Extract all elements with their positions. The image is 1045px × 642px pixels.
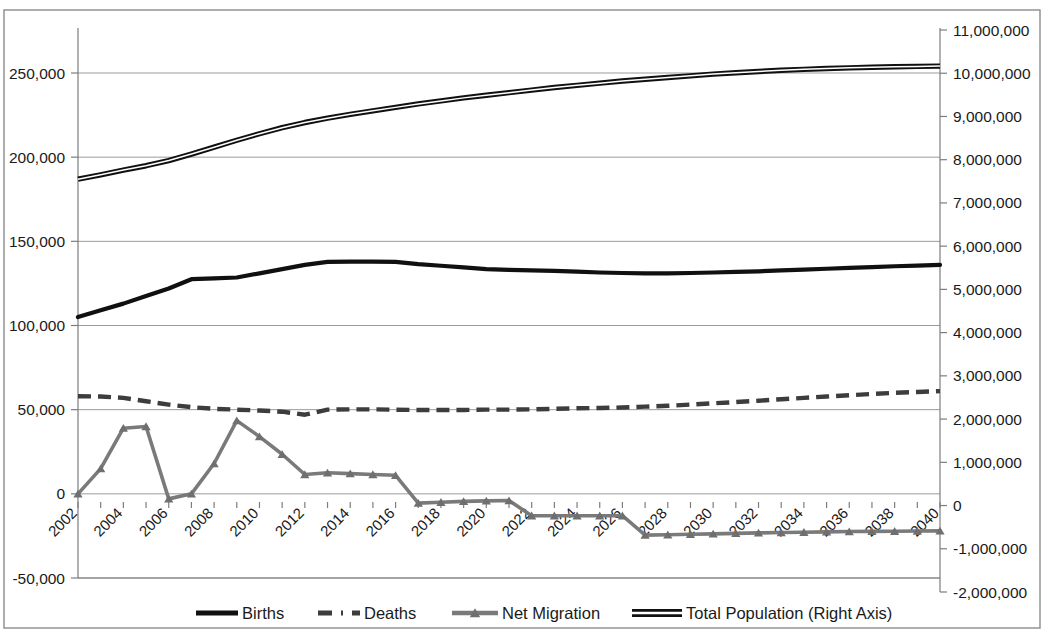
series-line-total-population (78, 66, 940, 179)
left-axis-tick-label: 0 (56, 485, 65, 502)
right-axis-tick-label: 3,000,000 (953, 367, 1022, 384)
legend-label: Net Migration (502, 604, 600, 622)
legend-label: Deaths (364, 604, 416, 622)
x-axis-tick-label: 2006 (135, 504, 171, 540)
x-axis-tick-label: 2024 (544, 504, 580, 540)
left-axis-tick-label: 100,000 (9, 317, 65, 334)
right-axis-tick-label: 11,000,000 (953, 22, 1030, 39)
left-axis-tick-label: 50,000 (18, 401, 66, 418)
right-axis: -2,000,000-1,000,00001,000,0002,000,0003… (940, 22, 1031, 601)
left-axis-tick-label: 150,000 (9, 233, 65, 250)
left-axis-tick-label: -50,000 (12, 570, 65, 587)
right-axis-tick-label: 0 (953, 497, 962, 514)
series-line-deaths (78, 391, 940, 415)
legend-item: Deaths (318, 604, 416, 622)
x-axis-tick-label: 2008 (181, 504, 217, 540)
right-axis-tick-label: 8,000,000 (953, 151, 1022, 168)
x-axis-tick-label: 2022 (498, 504, 534, 540)
right-axis-tick-label: 5,000,000 (953, 281, 1022, 298)
left-axis-tick-label: 200,000 (9, 149, 65, 166)
chart-canvas: -50,000050,000100,000150,000200,000250,0… (0, 0, 1045, 642)
series-marker-net-migration (232, 416, 241, 424)
legend-item: Total Population (Right Axis) (632, 604, 892, 622)
series-plot-area (73, 66, 944, 539)
x-axis-tick-label: 2018 (407, 504, 443, 540)
x-axis-tick-label: 2010 (226, 504, 262, 540)
x-axis-tick-label: 2004 (90, 504, 126, 540)
right-axis-tick-label: 10,000,000 (953, 65, 1031, 82)
x-axis-tick-label: 2002 (45, 504, 81, 540)
legend-label: Births (242, 604, 284, 622)
right-axis-tick-label: 7,000,000 (953, 194, 1022, 211)
right-axis-tick-label: 1,000,000 (953, 454, 1022, 471)
right-axis-tick-label: 6,000,000 (953, 238, 1022, 255)
right-axis-tick-label: 2,000,000 (953, 411, 1022, 428)
right-axis-tick-label: -1,000,000 (953, 540, 1027, 557)
right-axis-tick-label: -2,000,000 (953, 584, 1027, 601)
legend-item: Births (196, 604, 284, 622)
series-line-total-population-highlight (78, 66, 940, 179)
x-axis-tick-label: 2014 (317, 504, 353, 540)
x-axis-tick-label: 2012 (271, 504, 307, 540)
legend-label: Total Population (Right Axis) (686, 604, 892, 622)
x-axis-tick-label: 2020 (453, 504, 489, 540)
right-axis-tick-label: 4,000,000 (953, 324, 1022, 341)
series-line-births (78, 262, 940, 318)
x-axis-tick-label: 2026 (589, 504, 625, 540)
chart-outer-border (4, 10, 1040, 628)
population-projection-chart: -50,000050,000100,000150,000200,000250,0… (0, 0, 1045, 642)
chart-legend: BirthsDeathsNet MigrationTotal Populatio… (196, 604, 892, 622)
right-axis-tick-label: 9,000,000 (953, 108, 1022, 125)
legend-item: Net Migration (452, 604, 600, 622)
left-axis: -50,000050,000100,000150,000200,000250,0… (9, 28, 78, 587)
x-axis: 2002200420062008201020122014201620182020… (45, 502, 943, 578)
left-axis-tick-label: 250,000 (9, 65, 65, 82)
x-axis-tick-label: 2016 (362, 504, 398, 540)
